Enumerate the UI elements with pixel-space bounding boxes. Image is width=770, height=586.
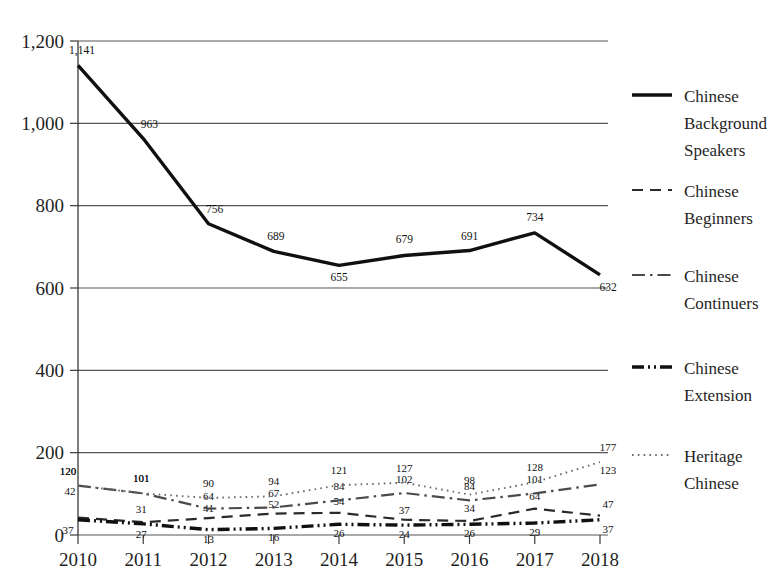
y-axis-label-400: 400 — [36, 360, 65, 381]
legend-label-chinese-background-speakers[interactable]: Chinese — [684, 87, 739, 106]
line-chart: 02004006008001,0001,20020102011201220132… — [0, 0, 770, 586]
legend-label-chinese-extension[interactable]: Extension — [684, 386, 752, 405]
series-line — [78, 65, 600, 275]
legend-label-chinese-continuers[interactable]: Chinese — [684, 267, 739, 286]
data-label: 632 — [599, 281, 617, 293]
y-axis-label-600: 600 — [36, 278, 65, 299]
data-label: 37 — [603, 523, 615, 535]
data-label: 37 — [399, 504, 411, 516]
data-label: 94 — [268, 475, 280, 487]
data-label: 101 — [133, 472, 150, 484]
data-label: 90 — [203, 477, 215, 489]
data-label: 64 — [529, 490, 541, 502]
data-label: 27 — [136, 528, 148, 540]
data-label: 689 — [267, 230, 285, 242]
legend-label-chinese-background-speakers[interactable]: Background — [684, 114, 768, 133]
y-axis-label-800: 800 — [36, 195, 65, 216]
data-label: 26 — [334, 527, 346, 539]
x-axis-label-2014: 2014 — [320, 549, 359, 570]
data-label: 34 — [464, 502, 476, 514]
data-label: 101 — [527, 473, 544, 485]
y-axis-label-1000: 1,000 — [21, 113, 64, 134]
x-axis-label-2018: 2018 — [581, 549, 619, 570]
data-label: 102 — [396, 473, 413, 485]
data-label: 123 — [600, 464, 617, 476]
data-label: 691 — [461, 230, 479, 242]
data-label: 64 — [203, 490, 215, 502]
x-axis-label-2017: 2017 — [516, 549, 554, 570]
legend-label-heritage-chinese[interactable]: Chinese — [684, 474, 739, 493]
x-axis-label-2015: 2015 — [385, 549, 423, 570]
x-axis-label-2016: 2016 — [451, 549, 489, 570]
data-label: 31 — [136, 503, 147, 515]
legend-label-chinese-beginners[interactable]: Beginners — [684, 209, 753, 228]
data-label: 29 — [529, 526, 541, 538]
x-axis-label-2010: 2010 — [59, 549, 97, 570]
data-label: 120 — [60, 465, 77, 477]
x-axis-label-2012: 2012 — [190, 549, 228, 570]
legend-label-chinese-extension[interactable]: Chinese — [684, 359, 739, 378]
legend-label-chinese-beginners[interactable]: Chinese — [684, 182, 739, 201]
legend: ChineseBackgroundSpeakersChineseBeginner… — [632, 87, 768, 493]
x-axis-label-2011: 2011 — [125, 549, 162, 570]
series-chinese-background-speakers: 1,141963756689655679691734632 — [69, 44, 617, 293]
gridlines-group: 02004006008001,0001,200 — [21, 31, 608, 546]
data-label: 98 — [464, 474, 476, 486]
y-axis-label-1200: 1,200 — [21, 31, 64, 52]
data-label: 963 — [141, 118, 159, 130]
data-label: 177 — [600, 441, 617, 453]
x-axis-group: 201020112012201320142015201620172018 — [59, 535, 619, 570]
data-label: 655 — [330, 271, 348, 283]
data-label: 16 — [268, 531, 280, 543]
data-label: 1,141 — [69, 44, 95, 57]
series-line — [78, 509, 600, 523]
data-label: 756 — [206, 203, 224, 215]
legend-label-heritage-chinese[interactable]: Heritage — [684, 447, 743, 466]
legend-label-chinese-continuers[interactable]: Continuers — [684, 294, 759, 313]
data-label: 26 — [464, 527, 476, 539]
data-label: 24 — [399, 528, 411, 540]
data-label: 127 — [396, 462, 413, 474]
chart-container: 02004006008001,0001,20020102011201220132… — [0, 0, 770, 586]
data-label: 67 — [268, 487, 280, 499]
x-axis-label-2013: 2013 — [255, 549, 293, 570]
data-label: 37 — [63, 524, 75, 536]
data-label: 121 — [331, 464, 348, 476]
series-chinese-extension: 372713162624262937 — [63, 520, 615, 545]
data-label: 679 — [396, 233, 414, 245]
y-axis-label-200: 200 — [36, 442, 65, 463]
data-label: 42 — [65, 485, 76, 497]
data-label: 84 — [334, 480, 346, 492]
data-label: 47 — [603, 498, 615, 510]
data-label: 13 — [203, 533, 215, 545]
legend-label-chinese-background-speakers[interactable]: Speakers — [684, 141, 745, 160]
data-label: 734 — [526, 211, 544, 223]
data-label: 128 — [527, 461, 544, 473]
